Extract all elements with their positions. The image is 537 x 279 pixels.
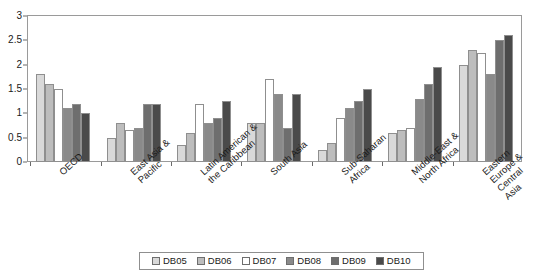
bar-db07: [54, 89, 63, 162]
legend-item-db10[interactable]: DB10: [376, 256, 411, 266]
chart-legend: DB05DB06DB07DB08DB09DB10: [139, 252, 424, 270]
bar-db08: [486, 74, 495, 162]
y-axis-tick-mark: [23, 89, 27, 90]
bar-db05: [318, 150, 327, 162]
legend-item-db06[interactable]: DB06: [197, 256, 232, 266]
legend-label: DB06: [208, 256, 232, 266]
legend-label: DB08: [297, 256, 321, 266]
y-axis: 00.511.522.53: [0, 8, 27, 169]
legend-label: DB07: [253, 256, 277, 266]
bar-chart: 00.511.522.53 OECDEast Asia & PacificLat…: [0, 0, 537, 279]
legend-item-db07[interactable]: DB07: [242, 256, 277, 266]
x-axis-labels: OECDEast Asia & PacificLatin American & …: [28, 163, 528, 238]
y-axis-tick-label: 0.5: [8, 133, 22, 143]
y-axis-tick-mark: [23, 40, 27, 41]
bar-db07: [265, 79, 274, 162]
bar-group: [388, 16, 442, 162]
bar-group: [318, 16, 372, 162]
bar-db07: [477, 53, 486, 163]
y-axis-tick-label: 3: [16, 11, 22, 21]
y-axis-tick-label: 2: [16, 60, 22, 70]
bar-db08: [345, 108, 354, 162]
bar-db07: [336, 118, 345, 162]
y-axis-tick-label: 0: [16, 157, 22, 167]
y-axis-tick-label: 2.5: [8, 35, 22, 45]
legend-swatch-icon: [331, 257, 339, 265]
legend-swatch-icon: [376, 257, 384, 265]
bar-db08: [415, 99, 424, 162]
bar-db06: [116, 123, 125, 162]
legend-swatch-icon: [197, 257, 205, 265]
y-axis-tick-mark: [23, 16, 27, 17]
bar-db07: [195, 104, 204, 162]
bar-db06: [327, 143, 336, 162]
legend-swatch-icon: [242, 257, 250, 265]
bar-db05: [36, 74, 45, 162]
bar-db06: [186, 133, 195, 162]
bar-db07: [125, 130, 134, 162]
bar-db08: [274, 94, 283, 162]
bar-db06: [45, 84, 54, 162]
legend-label: DB10: [387, 256, 411, 266]
legend-item-db08[interactable]: DB08: [286, 256, 321, 266]
legend-swatch-icon: [286, 257, 294, 265]
bar-db07: [406, 128, 415, 162]
legend-swatch-icon: [152, 257, 160, 265]
legend-item-db05[interactable]: DB05: [152, 256, 187, 266]
legend-label: DB05: [163, 256, 187, 266]
y-axis-tick-label: 1: [16, 108, 22, 118]
bar-db06: [468, 50, 477, 162]
y-axis-tick-mark: [23, 64, 27, 65]
bar-db05: [177, 145, 186, 162]
bar-db06: [397, 130, 406, 162]
bar-db10: [81, 113, 90, 162]
y-axis-tick-mark: [23, 113, 27, 114]
bar-group: [459, 16, 513, 162]
bar-group: [177, 16, 231, 162]
y-axis-tick-mark: [23, 137, 27, 138]
bar-db08: [63, 108, 72, 162]
bar-db05: [107, 138, 116, 162]
legend-label: DB09: [342, 256, 366, 266]
legend-item-db09[interactable]: DB09: [331, 256, 366, 266]
bar-group: [107, 16, 161, 162]
bar-db09: [495, 40, 504, 162]
y-axis-tick-label: 1.5: [8, 84, 22, 94]
y-axis-tick-mark: [23, 162, 27, 163]
bar-group: [36, 16, 90, 162]
